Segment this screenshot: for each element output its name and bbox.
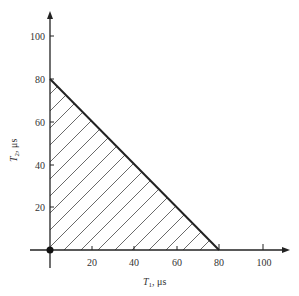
x-tick-label: 20 bbox=[87, 257, 97, 268]
boundary-line bbox=[50, 79, 219, 250]
y-tick-label: 100 bbox=[30, 31, 45, 42]
origin-point bbox=[47, 247, 54, 254]
region-diagram: 20 40 60 80 100 20 40 60 80 100 T1, μs T… bbox=[0, 0, 299, 296]
y-axis-label: T2, μs bbox=[8, 139, 21, 162]
x-tick-label: 60 bbox=[172, 257, 182, 268]
y-axis-arrow-icon bbox=[47, 11, 53, 19]
y-tick-label: 60 bbox=[35, 117, 45, 128]
x-tick-label: 100 bbox=[257, 257, 272, 268]
y-tick-label: 80 bbox=[35, 74, 45, 85]
x-axis-label: T1, μs bbox=[143, 276, 166, 289]
x-axis-arrow-icon bbox=[282, 247, 290, 253]
x-tick-label: 40 bbox=[129, 257, 139, 268]
y-tick-label: 20 bbox=[35, 202, 45, 213]
x-tick-label: 80 bbox=[214, 257, 224, 268]
y-tick-label: 40 bbox=[35, 160, 45, 171]
